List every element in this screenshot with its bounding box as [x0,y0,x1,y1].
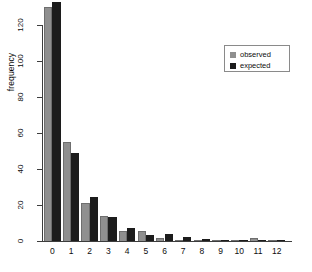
bar-observed-2 [81,203,89,241]
bar-expected-5 [146,235,154,241]
bar-observed-6 [156,238,164,241]
bar-expected-4 [127,228,135,241]
bar-observed-4 [119,231,127,241]
bar-expected-1 [71,153,79,241]
bar-expected-3 [108,217,116,241]
legend-label-observed: observed [240,51,271,59]
legend-item-expected: expected [230,61,270,71]
legend-swatch-observed [230,52,236,58]
bar-chart-figure: frequency 020406080100120 01234567891011… [0,0,312,272]
bar-expected-2 [90,197,98,241]
legend-swatch-expected [230,63,236,69]
legend-item-observed: observed [230,50,271,60]
bar-observed-0 [44,7,52,241]
bar-expected-8 [202,239,210,241]
bar-observed-5 [138,231,146,241]
bar-observed-8 [194,240,202,241]
bar-expected-7 [183,237,191,241]
bar-expected-12 [277,240,285,241]
bar-expected-0 [52,2,60,241]
bar-observed-1 [63,142,71,241]
chart-legend: observed expected [224,45,290,72]
plot-area [0,0,312,272]
bar-expected-9 [221,240,229,241]
bar-observed-3 [100,216,108,241]
legend-label-expected: expected [240,62,270,70]
bar-expected-11 [258,240,266,241]
bar-observed-10 [231,240,239,241]
bar-expected-6 [165,234,173,241]
bar-observed-12 [268,240,276,241]
bar-expected-10 [239,240,247,241]
bar-observed-11 [250,238,258,241]
bar-observed-9 [212,240,220,241]
bar-observed-7 [175,240,183,241]
